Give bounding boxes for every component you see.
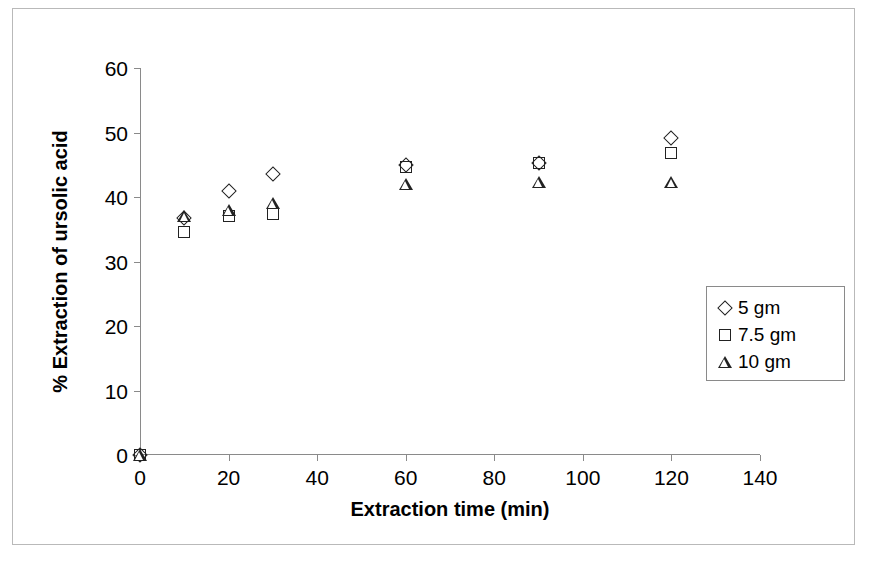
y-tick-mark <box>134 262 140 263</box>
data-point <box>664 131 680 147</box>
legend-swatch <box>717 354 735 370</box>
data-point <box>665 147 677 159</box>
plot-area: 0102030405060 020406080100120140 <box>140 68 760 455</box>
data-point <box>133 449 147 461</box>
x-tick-mark <box>583 455 584 461</box>
x-tick-label: 120 <box>654 467 689 488</box>
x-tick-label: 60 <box>394 467 417 488</box>
y-tick-mark <box>134 133 140 134</box>
data-point <box>399 178 413 190</box>
x-tick-label: 40 <box>305 467 328 488</box>
x-tick-label: 0 <box>134 467 146 488</box>
y-tick-label: 50 <box>105 122 128 143</box>
data-point <box>267 208 279 220</box>
data-point <box>177 210 191 222</box>
x-tick-label: 20 <box>217 467 240 488</box>
legend-item: 7.5 gm <box>717 321 844 348</box>
x-axis-title: Extraction time (min) <box>140 498 760 521</box>
y-tick-label: 30 <box>105 251 128 272</box>
x-tick-label: 140 <box>742 467 777 488</box>
x-tick-mark <box>406 455 407 461</box>
y-tick-mark <box>134 197 140 198</box>
y-tick-label: 0 <box>116 445 128 466</box>
legend-label: 7.5 gm <box>738 325 796 344</box>
y-tick-mark <box>134 68 140 69</box>
y-tick-label: 20 <box>105 316 128 337</box>
x-tick-mark <box>760 455 761 461</box>
y-axis-line <box>140 68 141 455</box>
legend-swatch <box>717 327 735 343</box>
diamond-marker-icon <box>717 300 733 316</box>
y-tick-mark <box>134 326 140 327</box>
legend-label: 5 gm <box>738 298 780 317</box>
y-axis-title: % Extraction of ursolic acid <box>46 68 74 455</box>
data-point <box>533 157 545 169</box>
x-axis-line <box>140 454 760 455</box>
data-point <box>400 161 412 173</box>
y-tick-label: 10 <box>105 380 128 401</box>
square-marker-icon <box>719 329 731 341</box>
x-tick-mark <box>494 455 495 461</box>
data-point <box>532 176 546 188</box>
x-tick-label: 100 <box>565 467 600 488</box>
data-point <box>265 167 281 183</box>
x-tick-mark <box>229 455 230 461</box>
chart-figure: % Extraction of ursolic acid Extraction … <box>0 0 870 580</box>
chart-legend: 5 gm7.5 gm10 gm <box>706 286 845 381</box>
x-tick-label: 80 <box>483 467 506 488</box>
x-tick-mark <box>671 455 672 461</box>
x-tick-mark <box>317 455 318 461</box>
legend-swatch <box>717 300 735 316</box>
y-tick-label: 40 <box>105 187 128 208</box>
data-point <box>222 204 236 216</box>
data-point <box>178 226 190 238</box>
data-point <box>221 183 237 199</box>
legend-label: 10 gm <box>738 352 791 371</box>
y-tick-mark <box>134 391 140 392</box>
legend-item: 10 gm <box>717 348 844 375</box>
data-point <box>266 197 280 209</box>
legend-item: 5 gm <box>717 294 844 321</box>
triangle-marker-icon <box>718 356 732 368</box>
y-tick-label: 60 <box>105 58 128 79</box>
data-point <box>664 176 678 188</box>
